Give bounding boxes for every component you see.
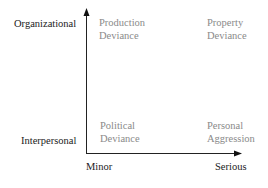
quadrant-top-left-line2: Deviance — [99, 29, 145, 42]
quadrant-bottom-left: Political Deviance — [100, 119, 140, 145]
quadrant-top-right: Property Deviance — [207, 16, 247, 42]
x-axis-arrowhead-icon — [234, 151, 242, 157]
quadrant-top-left: Production Deviance — [99, 16, 145, 42]
quadrant-bottom-right-line2: Aggression — [207, 132, 255, 145]
y-axis-bottom-label: Interpersonal — [21, 134, 76, 147]
quadrant-bottom-right-line1: Personal — [207, 119, 255, 132]
y-axis-arrowhead-icon — [84, 8, 90, 16]
x-axis-right-label: Serious — [215, 160, 247, 173]
quadrant-bottom-right: Personal Aggression — [207, 119, 255, 145]
quadrant-bottom-left-line2: Deviance — [100, 132, 140, 145]
quadrant-top-right-line2: Deviance — [207, 29, 247, 42]
quadrant-bottom-left-line1: Political — [100, 119, 140, 132]
quadrant-top-right-line1: Property — [207, 16, 247, 29]
y-axis-top-label: Organizational — [14, 17, 76, 30]
x-axis-left-label: Minor — [86, 160, 112, 173]
quadrant-top-left-line1: Production — [99, 16, 145, 29]
